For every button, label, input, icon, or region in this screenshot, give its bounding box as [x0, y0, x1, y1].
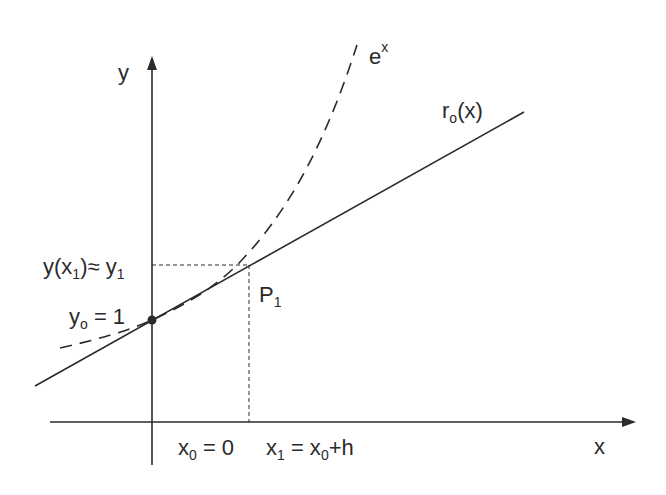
- y0-label: yo = 1: [69, 306, 125, 331]
- tangent-line: [35, 112, 524, 386]
- x1-label: x1 = x0+h: [266, 437, 354, 462]
- p1-label: P1: [259, 284, 281, 309]
- diagram-canvas: [0, 0, 666, 495]
- y-axis-label: y: [118, 62, 129, 84]
- exponential-label: ex: [369, 40, 388, 68]
- y1-approx-label: y(x1)≈ y1: [43, 256, 124, 281]
- x-axis-label: x: [594, 436, 605, 458]
- exponential-curve: [60, 45, 357, 348]
- x0-label: x0 = 0: [178, 437, 234, 462]
- tangent-label: ro(x): [442, 100, 483, 125]
- initial-point-marker: [148, 316, 157, 325]
